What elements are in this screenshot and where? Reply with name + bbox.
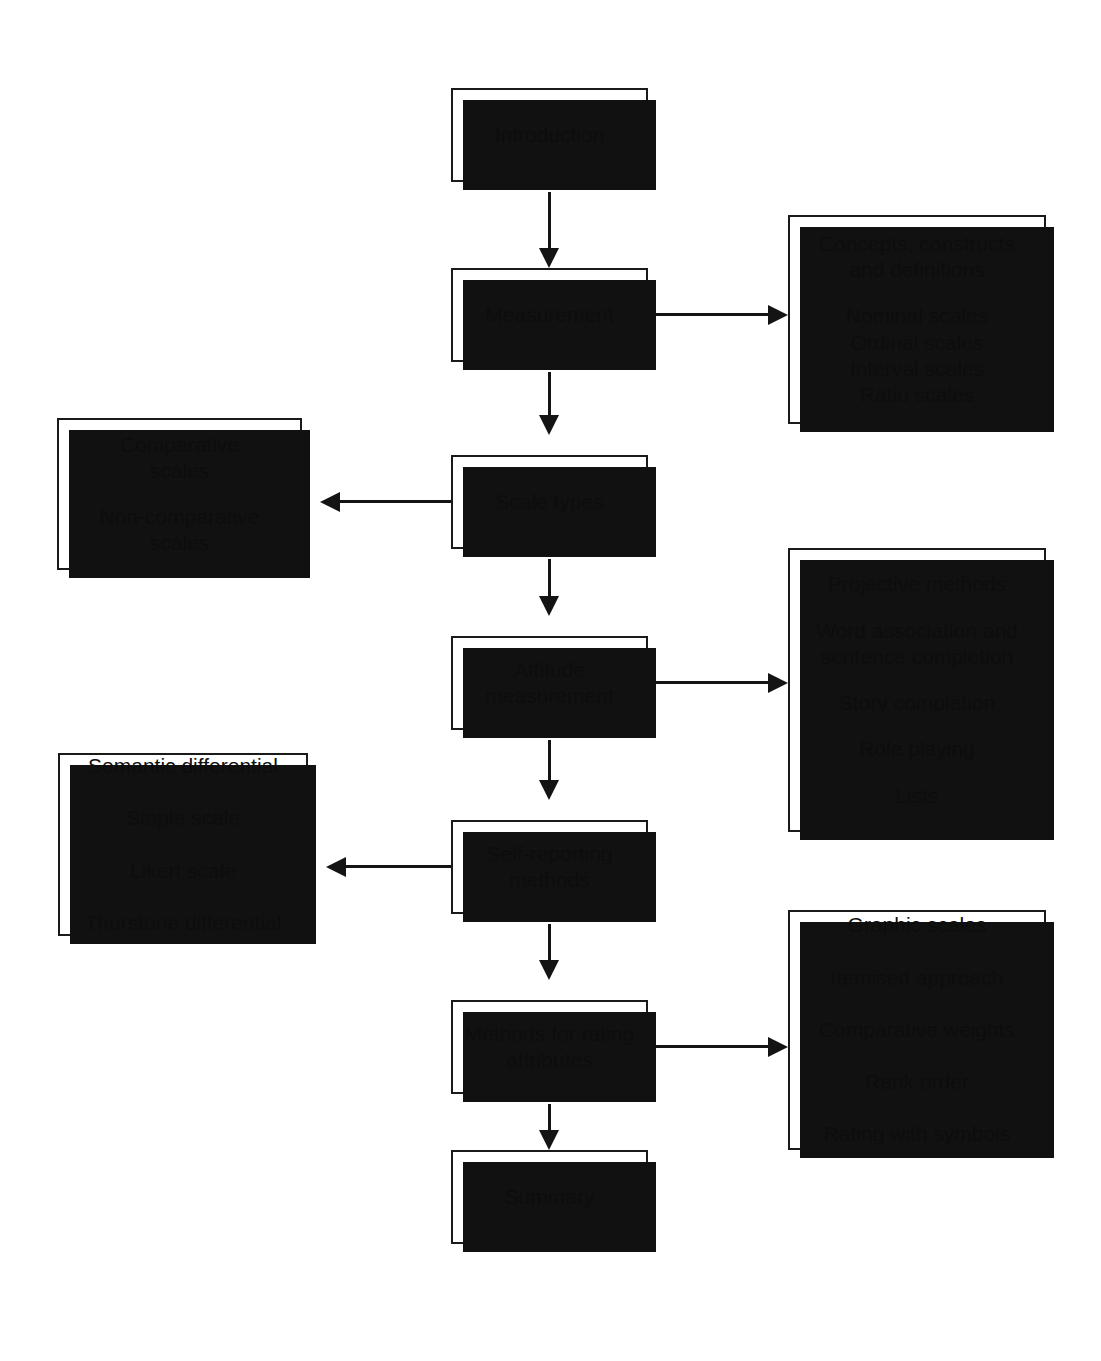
attitude-detail-item: sentence completion xyxy=(821,644,1014,670)
node-summary-label: Summary xyxy=(505,1184,595,1210)
connector-attitude-measurement-to-details xyxy=(648,681,770,684)
connector-scale-types-to-attitude-measurement xyxy=(548,559,551,598)
connector-measurement-to-scale-types xyxy=(548,372,551,417)
measurement-detail-item: Interval scales xyxy=(850,356,984,382)
scale-types-detail-item: scales xyxy=(150,530,210,556)
node-measurement-label: Measurement xyxy=(485,302,613,328)
arrow-attitude-measurement-to-details xyxy=(768,673,788,693)
connector-self-reporting-to-details xyxy=(346,865,453,868)
self-reporting-detail-item: Thurstone differential xyxy=(85,910,282,936)
rating-detail-item: Graphic scales xyxy=(848,912,987,938)
node-attitude-measurement-label-line2: measurement xyxy=(485,683,613,709)
scale-types-detail-item: scales xyxy=(150,458,210,484)
node-methods-for-rating-attributes[interactable]: Methods for rating attributes xyxy=(451,1000,648,1094)
flowchart-canvas: Introduction Measurement Scale types Att… xyxy=(0,0,1101,1361)
rating-detail-item: Comparative weights xyxy=(819,1017,1015,1043)
arrow-self-reporting-to-details xyxy=(326,857,346,877)
arrow-methods-for-rating-to-details xyxy=(768,1037,788,1057)
attitude-detail-item: Story completion xyxy=(839,690,995,716)
scale-types-detail-item: Non-comparative xyxy=(100,504,260,530)
scale-types-detail-item: Comparative xyxy=(120,432,239,458)
arrow-scale-types-to-attitude-measurement xyxy=(539,596,559,616)
arrow-self-reporting-to-methods-for-rating xyxy=(539,960,559,980)
arrow-scale-types-to-details xyxy=(320,492,340,512)
arrow-measurement-to-details xyxy=(768,305,788,325)
node-summary[interactable]: Summary xyxy=(451,1150,648,1244)
connector-measurement-to-details xyxy=(648,313,770,316)
node-scale-types-details[interactable]: Comparative scales Non-comparative scale… xyxy=(57,418,302,570)
node-attitude-measurement-label-line1: Attitude xyxy=(514,657,585,683)
rating-detail-item: Rank order xyxy=(865,1069,969,1095)
node-self-reporting-details[interactable]: Semantic differential Staple scale Liker… xyxy=(58,753,308,936)
arrow-introduction-to-measurement xyxy=(539,248,559,268)
node-scale-types[interactable]: Scale types xyxy=(451,455,648,549)
node-methods-for-rating-attributes-label-line1: Methods for rating xyxy=(465,1021,634,1047)
arrow-measurement-to-scale-types xyxy=(539,415,559,435)
measurement-detail-item: Ordinal scales xyxy=(850,330,983,356)
node-self-reporting-methods-label-line2: methods xyxy=(509,867,590,893)
node-methods-for-rating-attributes-label-line2: attributes xyxy=(506,1047,592,1073)
arrow-methods-for-rating-to-summary xyxy=(539,1130,559,1150)
self-reporting-detail-item: Likert scale xyxy=(130,858,236,884)
node-self-reporting-methods[interactable]: Self-reporting methods xyxy=(451,820,648,914)
connector-self-reporting-to-methods-for-rating xyxy=(548,924,551,962)
connector-introduction-to-measurement xyxy=(548,192,551,250)
measurement-detail-item: Concepts, constructs xyxy=(819,231,1015,257)
attitude-detail-item: Lists xyxy=(895,783,938,809)
rating-detail-item: Rating with symbols xyxy=(824,1121,1011,1147)
node-self-reporting-methods-label-line1: Self-reporting xyxy=(486,841,612,867)
self-reporting-detail-item: Semantic differential xyxy=(88,753,278,779)
self-reporting-detail-item: Staple scale xyxy=(126,805,240,831)
node-measurement[interactable]: Measurement xyxy=(451,268,648,362)
attitude-detail-item: Word association and xyxy=(816,618,1018,644)
node-scale-types-label: Scale types xyxy=(495,489,604,515)
node-rating-attributes-details[interactable]: Graphic scales Itemised approach Compara… xyxy=(788,910,1046,1150)
node-attitude-measurement[interactable]: Attitude measurement xyxy=(451,636,648,730)
connector-methods-for-rating-to-details xyxy=(648,1045,770,1048)
measurement-detail-item: Nominal scales xyxy=(846,303,988,329)
connector-methods-for-rating-to-summary xyxy=(548,1104,551,1132)
node-measurement-details[interactable]: Concepts, constructs and definitions Nom… xyxy=(788,215,1046,424)
connector-scale-types-to-details xyxy=(340,500,453,503)
attitude-detail-item: Role playing xyxy=(859,736,975,762)
rating-detail-item: Itemised approach xyxy=(831,965,1004,991)
attitude-detail-item: Projective methods xyxy=(828,571,1007,597)
arrow-attitude-measurement-to-self-reporting xyxy=(539,780,559,800)
node-introduction-label: Introduction xyxy=(495,122,605,148)
connector-attitude-measurement-to-self-reporting xyxy=(548,740,551,782)
measurement-detail-item: Ratio scales xyxy=(860,382,974,408)
node-introduction[interactable]: Introduction xyxy=(451,88,648,182)
measurement-detail-item: and definitions xyxy=(849,257,984,283)
node-attitude-measurement-details[interactable]: Projective methods Word association and … xyxy=(788,548,1046,832)
